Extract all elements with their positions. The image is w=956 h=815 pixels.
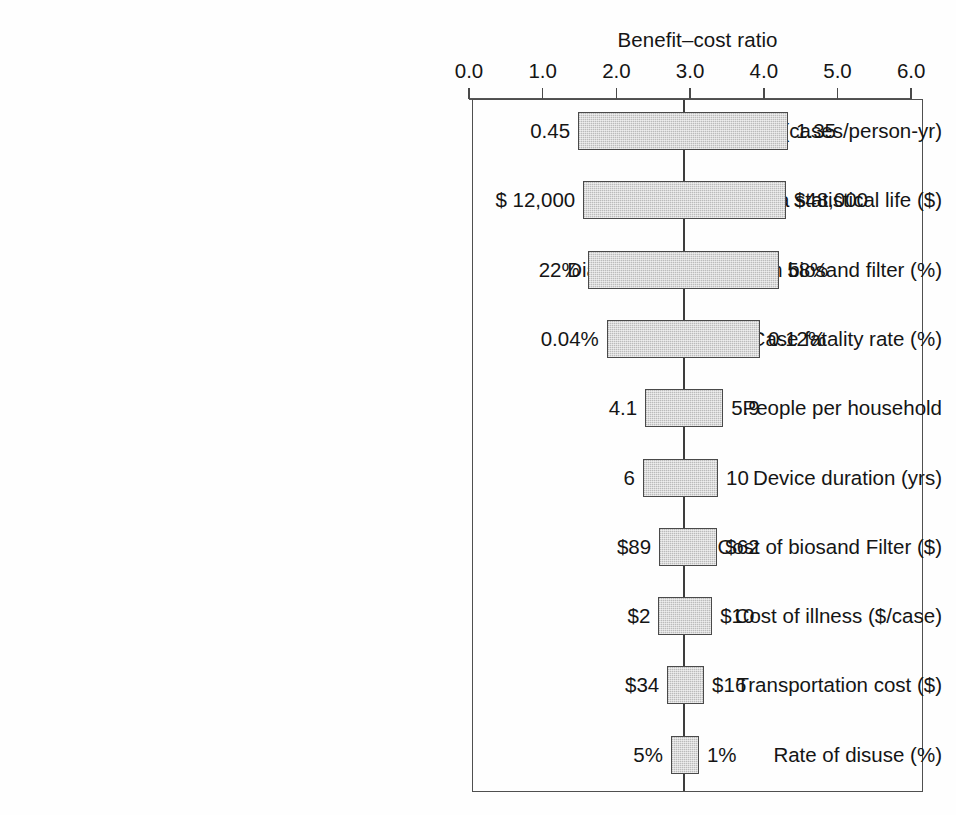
bar-high-value: $16 — [712, 673, 746, 697]
tornado-row: People per household4.15.9 — [0, 385, 956, 431]
tornado-bar — [607, 320, 760, 358]
tornado-bar — [671, 736, 699, 774]
tornado-row: Device duration (yrs)610 — [0, 455, 956, 501]
bar-low-value: $34 — [625, 673, 659, 697]
tornado-bar — [645, 389, 723, 427]
x-tick-label: 0.0 — [455, 59, 484, 83]
tornado-row: Cost of biosand Filter ($)$89$62 — [0, 524, 956, 570]
bar-low-value: 6 — [624, 466, 635, 490]
bar-high-value: $48,000 — [794, 188, 868, 212]
bar-high-value: 10 — [726, 466, 749, 490]
row-label: People per household — [500, 396, 956, 420]
x-tick-mark — [910, 88, 912, 99]
tornado-bar — [658, 597, 712, 635]
bar-low-value: 0.45 — [530, 119, 570, 143]
bar-low-value: 0.04% — [541, 327, 599, 351]
bar-high-value: 0.12% — [768, 327, 826, 351]
x-tick-label: 5.0 — [823, 59, 852, 83]
bar-high-value: $62 — [725, 535, 759, 559]
bar-low-value: $ 12,000 — [495, 188, 575, 212]
bar-low-value: $89 — [617, 535, 651, 559]
bar-low-value: $2 — [628, 604, 651, 628]
tornado-row: Cost of illness ($/case)$2$10 — [0, 593, 956, 639]
x-tick-mark — [837, 88, 839, 99]
bar-low-value: 5% — [633, 743, 663, 767]
bar-high-value: $10 — [720, 604, 754, 628]
tornado-bar — [667, 666, 704, 704]
x-tick-label: 6.0 — [897, 59, 926, 83]
bar-high-value: 1% — [707, 743, 737, 767]
x-tick-mark — [763, 88, 765, 99]
bar-low-value: 4.1 — [609, 396, 638, 420]
tornado-bar — [578, 112, 788, 150]
x-tick-mark — [689, 88, 691, 99]
tornado-row: Case fatality rate (%)0.04%0.12% — [0, 316, 956, 362]
bar-high-value: 1.35 — [796, 119, 836, 143]
tornado-row: Transportation cost ($)$34$16 — [0, 662, 956, 708]
tornado-row: Diarrhea reduction from biosand filter (… — [0, 247, 956, 293]
tornado-row: Diarrheal incidence (cases/person-yr)0.4… — [0, 108, 956, 154]
tornado-chart-page: Benefit–cost ratio 0.01.02.03.04.05.06.0… — [0, 0, 956, 815]
tornado-row: Rate of disuse (%)5%1% — [0, 732, 956, 778]
x-tick-mark — [542, 88, 544, 99]
bar-high-value: 5.9 — [731, 396, 760, 420]
bar-low-value: 22% — [539, 258, 580, 282]
x-tick-label: 1.0 — [528, 59, 557, 83]
bar-high-value: 58% — [787, 258, 828, 282]
x-tick-mark — [468, 88, 470, 99]
tornado-bar — [588, 251, 780, 289]
x-tick-label: 3.0 — [676, 59, 705, 83]
x-tick-label: 2.0 — [602, 59, 631, 83]
tornado-bar — [659, 528, 717, 566]
x-tick-label: 4.0 — [750, 59, 779, 83]
tornado-bar — [583, 181, 786, 219]
x-tick-mark — [616, 88, 618, 99]
tornado-bar — [643, 459, 718, 497]
tornado-row: Value of a statistical life ($)$ 12,000$… — [0, 177, 956, 223]
